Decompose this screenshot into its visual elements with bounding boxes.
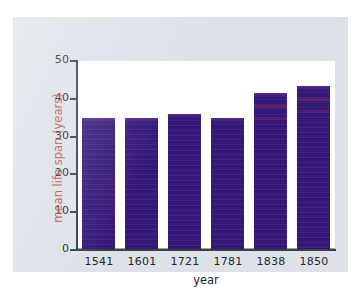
x-axis-tick-label: 1838 bbox=[248, 255, 294, 268]
bar bbox=[254, 93, 287, 250]
x-axis-tick-label: 1850 bbox=[291, 255, 337, 268]
bar bbox=[297, 86, 330, 250]
bar-top-highlight bbox=[211, 118, 244, 123]
y-axis-tick bbox=[70, 211, 76, 213]
bar-top-highlight bbox=[297, 86, 330, 91]
bar-top-highlight bbox=[125, 118, 158, 123]
chart-panel: 01020304050 mean life span (years) 15411… bbox=[13, 17, 348, 272]
bar bbox=[82, 118, 115, 250]
bar bbox=[125, 118, 158, 250]
bar-band bbox=[254, 105, 287, 108]
y-axis-line bbox=[76, 60, 78, 251]
bar-band bbox=[254, 117, 287, 120]
y-axis-tick bbox=[70, 60, 76, 62]
bar bbox=[168, 114, 201, 250]
y-axis-tick bbox=[70, 98, 76, 100]
bar bbox=[211, 118, 244, 250]
x-axis-tick-labels: 154116011721178118381850 bbox=[77, 255, 335, 271]
y-axis-tick bbox=[70, 173, 76, 175]
x-axis-title: year bbox=[77, 273, 335, 287]
y-axis-title: mean life span (years) bbox=[51, 73, 65, 243]
bar-band bbox=[297, 110, 330, 113]
x-axis-line bbox=[76, 249, 336, 251]
bar-top-highlight bbox=[82, 118, 115, 123]
bar-series bbox=[77, 61, 335, 250]
x-axis-tick-label: 1721 bbox=[162, 255, 208, 268]
y-axis-tick bbox=[70, 136, 76, 138]
y-axis-tick bbox=[70, 249, 76, 251]
bar-top-highlight bbox=[254, 93, 287, 98]
y-axis-title-wrap: mean life span (years) bbox=[39, 47, 57, 227]
bar-band bbox=[297, 98, 330, 101]
x-axis-tick-label: 1781 bbox=[205, 255, 251, 268]
x-axis-tick-label: 1601 bbox=[119, 255, 165, 268]
y-axis-tick-label: 0 bbox=[29, 242, 69, 255]
x-axis-tick-label: 1541 bbox=[76, 255, 122, 268]
bar-top-highlight bbox=[168, 114, 201, 119]
